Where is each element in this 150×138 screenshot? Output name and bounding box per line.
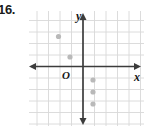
data-point	[67, 54, 72, 59]
data-point	[90, 77, 95, 82]
horizontal-gridlines	[29, 11, 144, 124]
worksheet-problem-figure: 16.	[0, 0, 150, 138]
origin-label: O	[62, 70, 70, 81]
coordinate-graph: y x O	[29, 11, 144, 126]
grid-svg	[29, 11, 144, 126]
data-point	[90, 89, 95, 94]
problem-number: 16.	[0, 3, 15, 16]
vertical-gridlines	[29, 11, 141, 126]
x-axis-label: x	[134, 71, 140, 83]
data-point	[90, 101, 95, 106]
y-axis-label: y	[76, 10, 81, 22]
data-point	[56, 34, 61, 39]
x-axis-arrow-right	[134, 63, 141, 70]
x-axis-arrow-left	[29, 63, 36, 70]
